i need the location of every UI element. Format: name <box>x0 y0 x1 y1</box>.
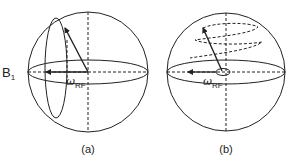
omega-rf-label-b: ωRF <box>203 75 223 90</box>
omega-rf-label-a: ωRF <box>66 75 86 90</box>
bloch-sphere-figure: B1 ωRF (a) ωRF (b) <box>0 0 300 160</box>
panel-b <box>167 13 285 131</box>
panel-a <box>28 12 148 132</box>
caption-b: (b) <box>219 143 232 155</box>
magnetization-vector <box>203 28 222 71</box>
caption-a: (a) <box>81 143 94 155</box>
b1-label: B1 <box>2 65 16 82</box>
precession-circle-vertical <box>45 18 67 118</box>
magnetization-vector <box>65 28 88 72</box>
